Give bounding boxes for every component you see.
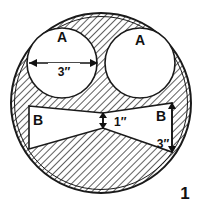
label-circle-a-right: A [135,32,145,48]
label-circle-a-left: A [57,29,67,45]
figure-number: 1 [180,184,189,203]
cross-section-diagram: A A B B 3″ 1″ 3″ 1 [0,0,202,209]
dimension-value-waist-b: 1″ [114,115,127,129]
dimension-value-height-b-right: 3″ [157,137,170,151]
label-bowtie-b-left: B [33,112,43,128]
dimension-value-diameter-a: 3″ [58,65,71,79]
figure-container: A A B B 3″ 1″ 3″ 1 [0,0,202,209]
label-bowtie-b-right: B [156,108,166,124]
